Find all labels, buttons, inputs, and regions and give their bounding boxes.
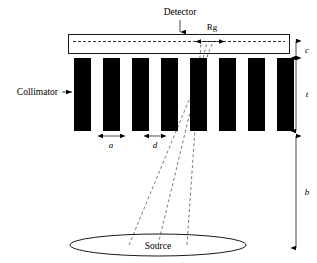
dim-b-label: b xyxy=(305,187,310,197)
dim-d-label: d xyxy=(153,140,158,150)
dim-t-label: t xyxy=(306,89,309,99)
collimator-bar xyxy=(103,58,120,131)
collimator-label: Collimator xyxy=(17,87,59,97)
dim-a-label: a xyxy=(109,140,114,150)
rg-label: Rg xyxy=(207,22,218,32)
diagram-canvas: Detector Rg Collimator a d c t b Source xyxy=(0,0,317,263)
detector-body xyxy=(69,35,290,54)
detector-group xyxy=(69,35,290,54)
collimator-bars xyxy=(74,58,294,131)
collimator-bar xyxy=(219,58,236,131)
collimator-bar xyxy=(248,58,265,131)
collimator-diagram: Detector Rg Collimator a d c t b Source xyxy=(0,0,317,263)
collimator-bar xyxy=(190,58,207,131)
collimator-bar xyxy=(161,58,178,131)
collimator-bar xyxy=(74,58,91,131)
collimator-bar xyxy=(132,58,149,131)
collimator-bar xyxy=(277,58,294,131)
dim-c-label: c xyxy=(305,45,309,55)
source-label: Source xyxy=(145,241,171,251)
detector-label: Detector xyxy=(164,7,198,17)
